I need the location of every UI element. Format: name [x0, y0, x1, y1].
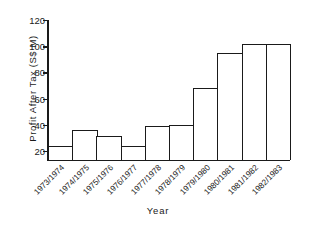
bar-chart-figure: Profit After Tax (S$ M) 20406080100120 1… [0, 0, 316, 229]
y-tick-label: 40 [34, 119, 45, 130]
bar [169, 125, 195, 160]
bar [72, 130, 98, 160]
y-tick-label: 60 [34, 93, 45, 104]
bar [121, 146, 147, 160]
plot-area: 20406080100120 [48, 20, 290, 160]
y-tick-label: 120 [29, 15, 45, 26]
bar [266, 44, 292, 160]
bar [48, 146, 74, 160]
y-tick-label: 100 [29, 41, 45, 52]
bar [242, 44, 268, 160]
bar [217, 53, 243, 160]
bar [145, 126, 171, 160]
y-tick-label: 80 [34, 67, 45, 78]
y-tick-label: 20 [34, 145, 45, 156]
bar [96, 136, 122, 160]
bar-series [48, 20, 290, 160]
bar [193, 88, 219, 160]
x-axis-title: Year [0, 205, 316, 216]
